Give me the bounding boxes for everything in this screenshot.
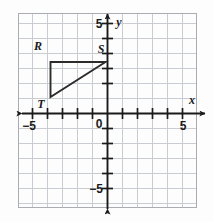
- graph-svg: R S T x y −5 5 0 5 −5: [0, 0, 213, 222]
- x-axis-label: x: [188, 93, 195, 107]
- origin-label: 0: [96, 117, 103, 131]
- vertex-label-t: T: [37, 97, 45, 111]
- vertex-label-s: S: [98, 42, 105, 56]
- y-axis-label: y: [114, 15, 122, 29]
- vertex-label-r: R: [33, 39, 42, 53]
- coordinate-plane-figure: R S T x y −5 5 0 5 −5: [0, 0, 213, 222]
- x-tick-label-pos5: 5: [180, 119, 187, 133]
- y-tick-label-pos5: 5: [96, 17, 103, 31]
- y-tick-label-neg5: −5: [89, 182, 103, 196]
- x-tick-label-neg5: −5: [22, 119, 36, 133]
